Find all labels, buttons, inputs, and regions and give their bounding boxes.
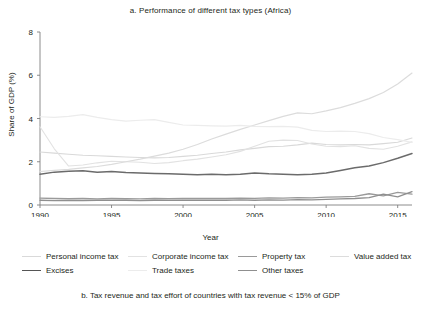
legend-swatch	[238, 270, 257, 271]
legend-label: Property tax	[262, 252, 305, 262]
legend-item: Excises	[22, 264, 74, 277]
legend-swatch	[22, 270, 41, 271]
legend-label: Value added tax	[354, 252, 411, 262]
legend-swatch	[128, 256, 147, 257]
y-tick-label: 8	[29, 28, 34, 37]
legend-swatch	[22, 256, 41, 257]
x-tick-label: 1990	[31, 211, 49, 217]
series-line	[40, 73, 412, 171]
y-axis-label: Share of GDP (%)	[7, 50, 16, 160]
x-tick-label: 1995	[103, 211, 121, 217]
legend-item: Property tax	[238, 250, 305, 263]
legend-item: Trade taxes	[128, 264, 194, 277]
y-tick-label: 4	[29, 115, 34, 124]
legend-item: Personal income tax	[22, 250, 118, 263]
x-tick-label: 2015	[389, 211, 407, 217]
legend-label: Excises	[46, 266, 74, 276]
y-tick-label: 0	[29, 201, 34, 210]
legend-label: Other taxes	[262, 266, 303, 276]
x-tick-label: 2000	[174, 211, 192, 217]
legend-item: Other taxes	[238, 264, 303, 277]
y-tick-label: 6	[29, 71, 34, 80]
figure-panel: a. Performance of different tax types (A…	[0, 0, 421, 311]
legend-label: Trade taxes	[152, 266, 194, 276]
line-chart-svg: 02468199019952000200520102015	[0, 22, 421, 217]
chart-legend: Personal income taxCorporate income taxP…	[0, 250, 421, 284]
legend-swatch	[238, 256, 257, 257]
x-tick-label: 2005	[246, 211, 264, 217]
legend-item: Value added tax	[330, 250, 411, 263]
y-tick-label: 2	[29, 158, 34, 167]
legend-item: Corporate income tax	[128, 250, 228, 263]
figure-b-caption: b. Tax revenue and tax effort of countri…	[0, 291, 421, 300]
legend-label: Corporate income tax	[152, 252, 228, 262]
x-axis-label: Year	[0, 233, 421, 242]
legend-label: Personal income tax	[46, 252, 118, 262]
legend-swatch	[128, 270, 147, 271]
series-line	[40, 115, 412, 143]
series-line	[40, 127, 412, 166]
series-line	[40, 154, 412, 175]
x-tick-label: 2010	[317, 211, 335, 217]
chart-title: a. Performance of different tax types (A…	[0, 6, 421, 15]
legend-swatch	[330, 256, 349, 257]
plot-area: Share of GDP (%) 02468199019952000200520…	[0, 22, 421, 217]
